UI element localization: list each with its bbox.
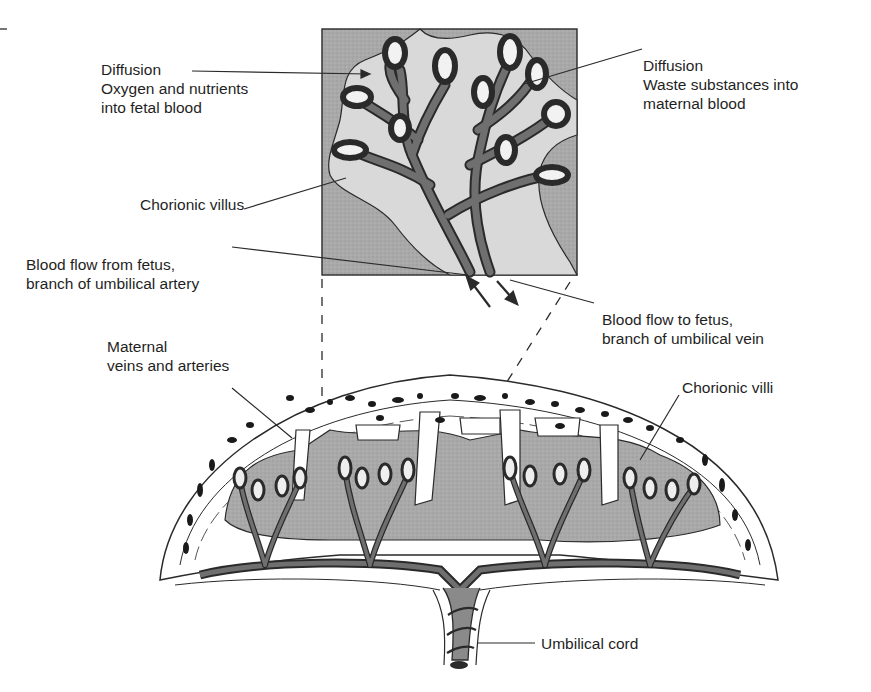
- label-diffusion-waste: Diffusion Waste substances into maternal…: [643, 56, 798, 113]
- label-line: Oxygen and nutrients: [101, 79, 248, 98]
- label-line: Blood flow from fetus,: [26, 255, 199, 274]
- label-line: Waste substances into: [643, 75, 798, 94]
- placenta-cross-section: [160, 375, 778, 669]
- label-diffusion-oxygen-nutrients: Diffusion Oxygen and nutrients into feta…: [101, 60, 248, 117]
- villus-inset: [322, 29, 577, 307]
- label-line: Diffusion: [643, 56, 798, 75]
- label-line: Blood flow to fetus,: [602, 310, 764, 329]
- label-blood-from-fetus: Blood flow from fetus, branch of umbilic…: [26, 255, 199, 293]
- label-line: branch of umbilical artery: [26, 274, 199, 293]
- label-line: maternal blood: [643, 94, 798, 113]
- label-line: branch of umbilical vein: [602, 329, 764, 348]
- label-line: veins and arteries: [107, 356, 229, 375]
- label-line: Diffusion: [101, 60, 248, 79]
- label-line: Chorionic villi: [682, 378, 773, 397]
- label-line: into fetal blood: [101, 98, 248, 117]
- label-line: Umbilical cord: [541, 634, 638, 653]
- label-line: Maternal: [107, 337, 229, 356]
- label-blood-to-fetus: Blood flow to fetus, branch of umbilical…: [602, 310, 764, 348]
- label-maternal-veins-arteries: Maternal veins and arteries: [107, 337, 229, 375]
- label-chorionic-villi: Chorionic villi: [682, 378, 773, 397]
- label-chorionic-villus: Chorionic villus: [140, 195, 244, 214]
- label-line: Chorionic villus: [140, 195, 244, 214]
- label-umbilical-cord: Umbilical cord: [541, 634, 638, 653]
